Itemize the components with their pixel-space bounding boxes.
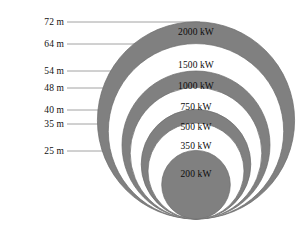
concentric-circles-diagram <box>0 0 308 236</box>
rotor-diameter-figure: 72 m64 m54 m48 m40 m35 m25 m 2000 kW1500… <box>0 0 308 236</box>
power-label-200-kw: 200 kW <box>181 169 212 179</box>
diameter-label-25m: 25 m <box>44 146 64 156</box>
power-label-2000-kw: 2000 kW <box>178 27 214 37</box>
power-label-750-kw: 750 kW <box>181 102 212 112</box>
rotor-circle-25m <box>162 150 231 219</box>
power-label-500-kw: 500 kW <box>181 122 212 132</box>
diameter-label-40m: 40 m <box>44 105 64 115</box>
power-label-350-kw: 350 kW <box>181 141 212 151</box>
circle-group <box>97 22 294 219</box>
diameter-label-54m: 54 m <box>44 66 64 76</box>
power-label-1500-kw: 1500 kW <box>178 60 214 70</box>
diameter-label-48m: 48 m <box>44 83 64 93</box>
diameter-label-72m: 72 m <box>44 17 64 27</box>
power-label-1000-kw: 1000 kW <box>178 81 214 91</box>
diameter-label-64m: 64 m <box>44 39 64 49</box>
diameter-label-35m: 35 m <box>44 119 64 129</box>
